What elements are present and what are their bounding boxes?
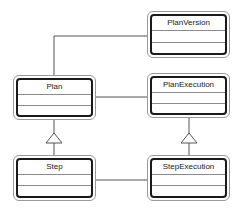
association-plan-planversion [54,36,147,75]
class-name: StepExecution [152,160,225,175]
operations-compartment [152,43,225,54]
class-planversion[interactable]: PlanVersion [147,11,230,58]
attributes-compartment [18,175,91,186]
attributes-compartment [18,95,91,106]
class-plan[interactable]: Plan [13,75,96,120]
class-name: PlanVersion [152,16,225,31]
class-name: Step [18,160,91,175]
class-name: Plan [18,80,91,95]
attributes-compartment [152,175,225,186]
generalization-triangle-icon [46,133,62,143]
class-stepexecution[interactable]: StepExecution [147,155,230,201]
class-name: PlanExecution [152,78,225,93]
class-planexecution[interactable]: PlanExecution [147,73,230,118]
operations-compartment [18,186,91,196]
class-step[interactable]: Step [13,155,96,201]
attributes-compartment [152,93,225,104]
operations-compartment [152,186,225,196]
operations-compartment [152,104,225,114]
generalization-triangle-icon [181,133,197,143]
operations-compartment [18,106,91,116]
attributes-compartment [152,31,225,43]
